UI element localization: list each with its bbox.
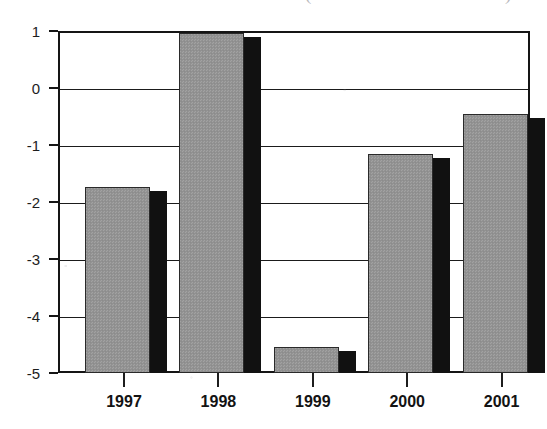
bar-shadow-1999 <box>339 351 356 374</box>
bar-fill <box>274 347 339 374</box>
x-tick-mark <box>312 373 314 387</box>
y-tick-mark <box>49 258 58 260</box>
y-tick-mark <box>49 144 58 146</box>
y-tick-label: -5 <box>27 365 40 382</box>
bar-1998 <box>179 33 244 373</box>
gridline-0 <box>60 89 528 90</box>
x-tick-label-1998: 1998 <box>201 393 237 411</box>
bar-fill <box>368 154 433 373</box>
y-tick-label: -2 <box>27 194 40 211</box>
y-tick-mark <box>49 30 58 32</box>
y-tick-label: -4 <box>27 308 40 325</box>
x-tick-label-1999: 1999 <box>295 393 331 411</box>
x-tick-mark <box>501 373 503 387</box>
x-tick-mark <box>123 373 125 387</box>
bar-1997 <box>85 187 150 373</box>
x-tick-mark <box>217 373 219 387</box>
y-tick-label: -1 <box>27 137 40 154</box>
x-tick-label-2000: 2000 <box>389 393 425 411</box>
gridline-neg1 <box>60 146 528 147</box>
y-tick-label: -3 <box>27 251 40 268</box>
y-tick-mark <box>49 201 58 203</box>
x-tick-mark <box>406 373 408 387</box>
y-tick-label: 1 <box>32 23 40 40</box>
y-tick-mark <box>49 87 58 89</box>
bar-2001 <box>463 114 528 373</box>
bar-fill <box>179 33 244 373</box>
bar-shadow-2000 <box>433 158 450 373</box>
bar-shadow-1998 <box>244 37 261 373</box>
y-tick-mark <box>49 372 58 374</box>
bar-fill <box>463 114 528 373</box>
x-tick-label-2001: 2001 <box>484 393 520 411</box>
y-tick-mark <box>49 315 58 317</box>
bar-shadow-1997 <box>150 191 167 373</box>
bar-fill <box>85 187 150 373</box>
plot-area <box>58 31 530 373</box>
y-tick-label: 0 <box>32 80 40 97</box>
bar-chart: 10-1-2-3-4-5 19971998199920002001 <box>0 0 547 429</box>
bar-2000 <box>368 154 433 373</box>
x-tick-label-1997: 1997 <box>106 393 142 411</box>
bar-1999 <box>274 347 339 374</box>
bar-shadow-2001 <box>528 118 545 373</box>
